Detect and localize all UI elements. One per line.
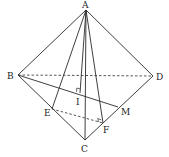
label-B: B (7, 71, 14, 81)
segment-AD (86, 10, 153, 76)
segment-BM (18, 75, 118, 107)
label-D: D (156, 72, 163, 82)
diagram-svg: A B D C E F M I (0, 0, 169, 157)
label-E: E (44, 108, 51, 118)
label-A: A (81, 0, 89, 10)
right-angle-marker-F (98, 119, 101, 122)
label-M: M (121, 107, 130, 117)
segment-CD (85, 76, 153, 140)
segment-AC (85, 10, 86, 140)
label-F: F (103, 125, 109, 135)
segment-AB (18, 10, 86, 75)
label-I: I (76, 97, 80, 107)
geometry-diagram: A B D C E F M I (0, 0, 169, 157)
segment-BC (18, 75, 85, 140)
segment-AF (86, 10, 103, 123)
segment-AE (52, 10, 86, 109)
label-C: C (81, 144, 88, 154)
